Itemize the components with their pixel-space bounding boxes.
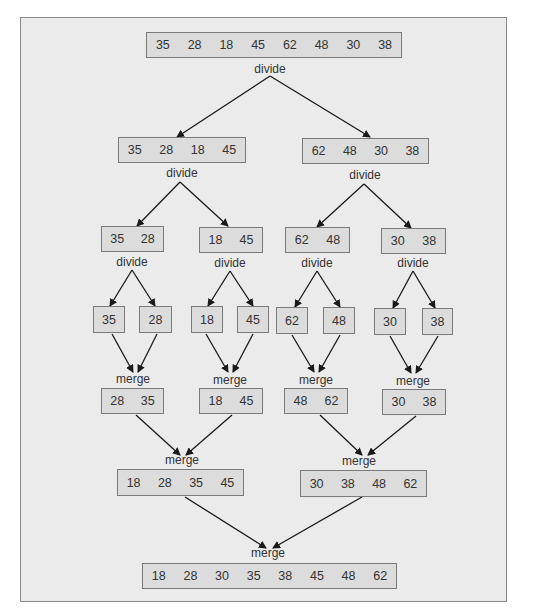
single-element: 45 bbox=[237, 306, 269, 333]
array-element: 35 bbox=[181, 476, 212, 490]
array-element: 45 bbox=[214, 143, 246, 157]
array-element: 28 bbox=[175, 569, 207, 583]
array-element: 28 bbox=[102, 394, 133, 408]
array-element: 35 bbox=[102, 232, 133, 246]
array-element: 38 bbox=[369, 38, 401, 52]
single-element: 48 bbox=[323, 307, 355, 334]
divide-label: divide bbox=[254, 62, 285, 76]
quarter-array: 1845 bbox=[199, 227, 263, 253]
right-half-array: 62483038 bbox=[302, 138, 429, 164]
array-element: 62 bbox=[286, 233, 318, 247]
single-element: 62 bbox=[276, 307, 308, 334]
merged-half: 30384862 bbox=[300, 470, 427, 497]
divide-label: divide bbox=[116, 255, 147, 269]
array-element: 45 bbox=[301, 569, 333, 583]
array-element: 38 bbox=[414, 395, 445, 409]
single-element: 18 bbox=[191, 306, 223, 333]
array-element: 45 bbox=[238, 313, 268, 327]
array-element: 48 bbox=[318, 233, 350, 247]
array-element: 30 bbox=[301, 477, 332, 491]
merge-label: merge bbox=[213, 373, 247, 387]
array-element: 35 bbox=[133, 394, 164, 408]
array-element: 18 bbox=[118, 476, 149, 490]
array-element: 48 bbox=[306, 38, 338, 52]
array-element: 62 bbox=[364, 569, 396, 583]
single-element: 35 bbox=[93, 306, 125, 333]
array-element: 30 bbox=[206, 569, 238, 583]
divide-label: divide bbox=[397, 256, 428, 270]
merge-label: merge bbox=[251, 546, 285, 560]
array-element: 28 bbox=[140, 313, 171, 327]
array-element: 48 bbox=[334, 144, 365, 158]
merge-label: merge bbox=[165, 453, 199, 467]
array-element: 45 bbox=[242, 38, 274, 52]
single-element: 28 bbox=[139, 306, 172, 333]
left-half-array: 35281845 bbox=[118, 137, 246, 163]
array-element: 62 bbox=[303, 144, 334, 158]
input-array: 3528184562483038 bbox=[146, 32, 402, 58]
array-element: 18 bbox=[182, 143, 214, 157]
array-element: 35 bbox=[147, 38, 179, 52]
array-element: 35 bbox=[94, 313, 124, 327]
merged-pair: 3038 bbox=[382, 389, 446, 415]
array-element: 30 bbox=[382, 234, 414, 248]
array-element: 38 bbox=[414, 234, 446, 248]
array-element: 48 bbox=[285, 394, 316, 408]
array-element: 35 bbox=[119, 143, 151, 157]
merged-half: 18283545 bbox=[117, 469, 244, 496]
merge-label: merge bbox=[116, 372, 150, 386]
array-element: 28 bbox=[149, 476, 180, 490]
array-element: 45 bbox=[231, 233, 262, 247]
array-element: 18 bbox=[211, 38, 243, 52]
array-element: 28 bbox=[179, 38, 211, 52]
divide-label: divide bbox=[349, 168, 380, 182]
merged-pair: 4862 bbox=[284, 388, 348, 414]
array-element: 18 bbox=[200, 394, 231, 408]
array-element: 62 bbox=[395, 477, 426, 491]
merged-pair: 2835 bbox=[101, 388, 164, 414]
array-element: 18 bbox=[200, 233, 231, 247]
array-element: 38 bbox=[332, 477, 363, 491]
array-element: 30 bbox=[338, 38, 370, 52]
single-element: 38 bbox=[422, 308, 453, 335]
array-element: 62 bbox=[274, 38, 306, 52]
array-element: 28 bbox=[151, 143, 183, 157]
array-element: 48 bbox=[364, 477, 395, 491]
array-element: 62 bbox=[316, 394, 347, 408]
array-element: 48 bbox=[324, 314, 354, 328]
quarter-array: 3528 bbox=[101, 226, 164, 252]
array-element: 18 bbox=[143, 569, 175, 583]
array-element: 30 bbox=[366, 144, 397, 158]
divide-label: divide bbox=[214, 256, 245, 270]
merge-label: merge bbox=[342, 454, 376, 468]
array-element: 45 bbox=[212, 476, 243, 490]
array-element: 62 bbox=[277, 314, 307, 328]
quarter-array: 3038 bbox=[381, 228, 446, 254]
quarter-array: 6248 bbox=[285, 227, 350, 253]
divide-label: divide bbox=[301, 256, 332, 270]
merged-pair: 1845 bbox=[199, 388, 263, 414]
array-element: 30 bbox=[375, 315, 405, 329]
array-element: 35 bbox=[238, 569, 270, 583]
sorted-output-array: 1828303538454862 bbox=[142, 563, 397, 589]
array-element: 38 bbox=[397, 144, 428, 158]
array-element: 38 bbox=[423, 315, 452, 329]
array-element: 48 bbox=[333, 569, 365, 583]
single-element: 30 bbox=[374, 308, 406, 335]
array-element: 38 bbox=[270, 569, 302, 583]
array-element: 45 bbox=[231, 394, 262, 408]
array-element: 18 bbox=[192, 313, 222, 327]
array-element: 28 bbox=[133, 232, 164, 246]
merge-label: merge bbox=[396, 374, 430, 388]
divide-label: divide bbox=[166, 166, 197, 180]
merge-label: merge bbox=[299, 373, 333, 387]
array-element: 30 bbox=[383, 395, 414, 409]
